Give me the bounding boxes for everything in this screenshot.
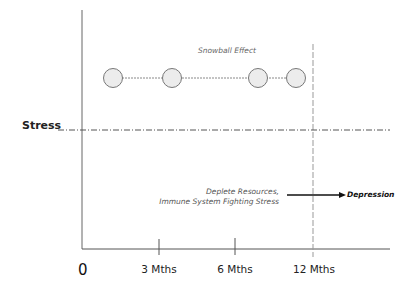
snowball-circle-2 <box>163 69 182 88</box>
x-tick-label-12-mths: 12 Mths <box>293 263 335 275</box>
y-axis-label-stress: Stress <box>22 119 61 132</box>
x-tick-label-6-mths: 6 Mths <box>217 263 252 275</box>
diagram-canvas <box>0 0 410 288</box>
origin-label: 0 <box>78 261 88 279</box>
annotation-line-2: Immune System Fighting Stress <box>159 197 279 207</box>
arrow-head-icon <box>339 192 346 198</box>
snowball-effect-label: Snowball Effect <box>198 46 256 55</box>
snowball-circle-1 <box>104 69 123 88</box>
depression-label: Depression <box>347 190 394 199</box>
deplete-resources-annotation: Deplete Resources, Immune System Fightin… <box>159 187 279 207</box>
snowball-circle-3 <box>249 69 268 88</box>
annotation-line-1: Deplete Resources, <box>159 187 279 197</box>
x-tick-label-3-mths: 3 Mths <box>141 263 176 275</box>
snowball-circle-4 <box>287 69 306 88</box>
